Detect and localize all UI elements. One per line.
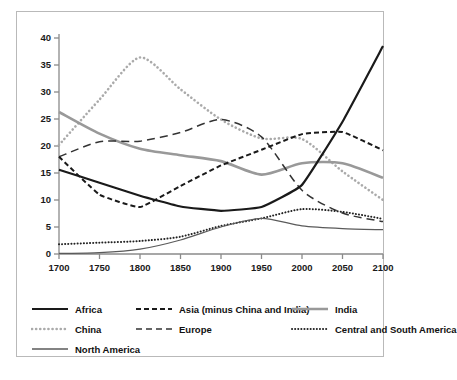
series-line-asia-minus-china-and-india (59, 132, 383, 207)
legend-label: Asia (minus China and India) (179, 304, 309, 315)
y-tick-label: 5 (29, 221, 51, 232)
chart-legend: AfricaAsia (minus China and India)IndiaC… (17, 298, 385, 356)
series-line-india (59, 112, 383, 178)
series-line-north-america (59, 218, 383, 253)
legend-label: India (335, 304, 357, 315)
plot-area: 0510152025303540170017501800185019001950… (17, 12, 385, 298)
legend-item-north-america[interactable]: North America (31, 340, 140, 358)
y-tick-label: 20 (29, 140, 51, 151)
x-tick-label: 1700 (42, 262, 76, 273)
x-tick-label: 2100 (366, 262, 400, 273)
legend-row: AfricaAsia (minus China and India)India (17, 300, 385, 318)
legend-swatch-icon (135, 323, 173, 335)
x-tick-label: 1850 (164, 262, 198, 273)
x-tick-label: 1950 (245, 262, 279, 273)
x-tick-label: 2000 (285, 262, 319, 273)
legend-label: North America (75, 344, 140, 355)
y-tick-label: 15 (29, 167, 51, 178)
x-tick-label: 1900 (204, 262, 238, 273)
legend-item-europe[interactable]: Europe (135, 320, 212, 338)
y-tick-label: 35 (29, 59, 51, 70)
legend-item-asia-minus-china-and-india[interactable]: Asia (minus China and India) (135, 300, 309, 318)
chart-figure: 0510152025303540170017501800185019001950… (16, 11, 384, 357)
y-tick-label: 25 (29, 113, 51, 124)
legend-swatch-icon (31, 303, 69, 315)
legend-row: ChinaEuropeCentral and South America (17, 320, 385, 338)
y-tick-label: 10 (29, 194, 51, 205)
legend-swatch-icon (291, 303, 329, 315)
legend-label: Africa (75, 304, 102, 315)
legend-label: Central and South America (335, 324, 457, 335)
chart-canvas (17, 12, 385, 298)
legend-item-africa[interactable]: Africa (31, 300, 102, 318)
y-tick-label: 0 (29, 248, 51, 259)
series-line-china (59, 57, 383, 200)
x-tick-label: 1750 (83, 262, 117, 273)
x-tick-label: 1800 (123, 262, 157, 273)
legend-item-china[interactable]: China (31, 320, 101, 338)
legend-label: China (75, 324, 101, 335)
legend-swatch-icon (291, 323, 329, 335)
series-line-africa (59, 46, 383, 211)
legend-swatch-icon (31, 343, 69, 355)
legend-swatch-icon (135, 303, 173, 315)
legend-row: North America (17, 340, 385, 358)
y-tick-label: 30 (29, 86, 51, 97)
legend-swatch-icon (31, 323, 69, 335)
legend-label: Europe (179, 324, 212, 335)
legend-item-central-and-south-america[interactable]: Central and South America (291, 320, 457, 338)
legend-item-india[interactable]: India (291, 300, 357, 318)
x-tick-label: 2050 (326, 262, 360, 273)
y-tick-label: 40 (29, 32, 51, 43)
